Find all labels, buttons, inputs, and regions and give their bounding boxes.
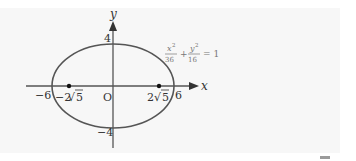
y-axis-label: y	[109, 7, 117, 21]
svg-text:+: +	[180, 49, 188, 59]
ellipse-equation: x 2 36 + y 2 16 = 1	[165, 42, 219, 64]
focus-left-point	[67, 84, 71, 88]
svg-text:√: √	[68, 91, 76, 104]
svg-text:√: √	[154, 91, 162, 104]
svg-text:5: 5	[162, 91, 169, 104]
svg-text:2: 2	[147, 91, 154, 104]
corner-mark	[320, 156, 330, 159]
svg-text:16: 16	[188, 56, 197, 64]
focus-right-label: 2 √ 5	[147, 90, 169, 104]
svg-text:5: 5	[76, 91, 83, 104]
svg-text:2: 2	[172, 42, 176, 48]
tick-y-bottom: −4	[97, 126, 113, 139]
y-axis-arrow-icon	[109, 21, 117, 31]
ellipse-figure: y x O 4 −4 −6 6 −2 √ 5 2 √ 5 x 2 36 + y …	[0, 0, 356, 161]
origin-label: O	[103, 91, 112, 104]
focus-left-label: −2 √ 5	[55, 90, 83, 104]
svg-text:= 1: = 1	[203, 49, 219, 59]
svg-text:36: 36	[165, 56, 174, 64]
tick-x-right: 6	[175, 89, 182, 102]
focus-right-point	[157, 84, 161, 88]
x-axis-arrow-icon	[189, 82, 199, 90]
tick-y-top: 4	[104, 32, 111, 45]
svg-text:2: 2	[195, 42, 199, 48]
tick-x-left: −6	[35, 89, 51, 102]
x-axis-label: x	[201, 79, 208, 93]
